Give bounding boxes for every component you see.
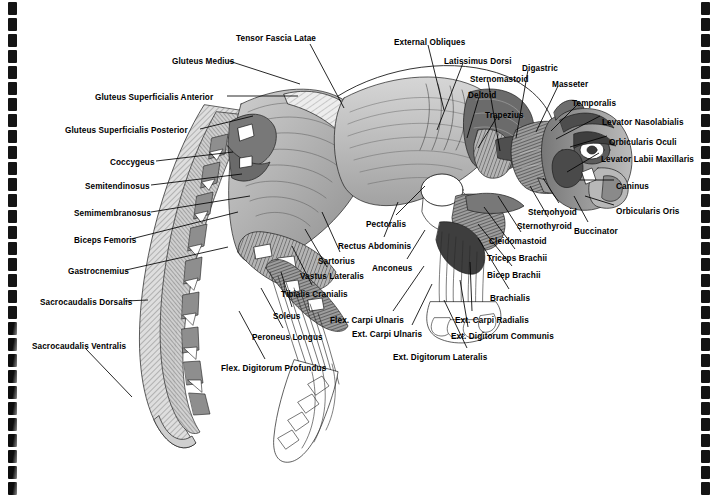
label-coccygeus: Coccygeus xyxy=(110,158,155,167)
label-caninus: Caninus xyxy=(616,182,649,191)
label-levator-labii-maxillaris: Levator Labii Maxillaris xyxy=(601,155,694,164)
label-brachialis: Brachialis xyxy=(490,294,530,303)
label-gluteus-medius: Gluteus Medius xyxy=(172,57,234,66)
binding-hole xyxy=(701,306,710,319)
binding-hole xyxy=(8,2,17,15)
label-ext-carpi-ulnaris: Ext. Carpi Ulnaris xyxy=(352,330,422,339)
label-flex-digitorum-profundus: Flex. Digitorum Profundus xyxy=(221,364,326,373)
label-sacrocaudalis-dorsalis: Sacrocaudalis Dorsalis xyxy=(40,298,132,307)
binding-hole xyxy=(701,482,710,495)
label-rectus-abdominis: Rectus Abdominis xyxy=(338,242,411,251)
label-gluteus-superficialis-anterior: Gluteus Superficialis Anterior xyxy=(95,93,213,102)
label-latissimus-dorsi: Latissimus Dorsi xyxy=(444,57,512,66)
label-buccinator: Buccinator xyxy=(574,227,618,236)
binding-hole xyxy=(701,2,710,15)
label-ext-digitorum-lateralis: Ext. Digitorum Lateralis xyxy=(393,353,487,362)
binding-hole xyxy=(8,370,17,383)
binding-hole xyxy=(701,402,710,415)
binding-hole xyxy=(701,386,710,399)
label-vastus-lateralis: Vastus Lateralis xyxy=(300,272,364,281)
scanned-page: Tensor Fascia LataeGluteus MediusGluteus… xyxy=(0,0,719,496)
label-levator-nasolabialis: Levator Nasolabialis xyxy=(602,118,684,127)
label-biceps-femoris: Biceps Femoris xyxy=(74,236,136,245)
binding-hole xyxy=(8,306,17,319)
label-sternohyoid: Sternohyoid xyxy=(528,208,577,217)
label-masseter: Masseter xyxy=(552,80,588,89)
label-gluteus-superficialis-posterior: Gluteus Superficialis Posterior xyxy=(65,126,188,135)
binding-hole xyxy=(701,50,710,63)
binding-hole xyxy=(701,370,710,383)
binding-hole xyxy=(8,354,17,367)
binding-hole xyxy=(701,274,710,287)
binding-hole xyxy=(701,226,710,239)
label-sternothyroid: Sternothyroid xyxy=(517,222,572,231)
binding-hole xyxy=(701,66,710,79)
binding-hole xyxy=(8,162,17,175)
binding-hole xyxy=(701,210,710,223)
binding-hole xyxy=(701,450,710,463)
binding-hole xyxy=(8,466,17,479)
binding-hole xyxy=(701,354,710,367)
spiral-binding-right xyxy=(693,0,719,496)
binding-hole xyxy=(8,50,17,63)
binding-hole xyxy=(701,114,710,127)
spiral-binding-left xyxy=(0,0,26,496)
binding-hole xyxy=(8,322,17,335)
label-sternomastoid: Sternomastoid xyxy=(470,75,529,84)
label-sartorius: Sartorius xyxy=(318,257,355,266)
binding-hole xyxy=(8,130,17,143)
binding-hole xyxy=(701,162,710,175)
label-soleus: Soleus xyxy=(273,312,300,321)
label-bicep-brachii: Bicep Brachii xyxy=(487,271,541,280)
binding-hole xyxy=(8,66,17,79)
label-ext-carpi-radialis: Ext. Carpi Radialis xyxy=(455,316,529,325)
binding-hole xyxy=(8,434,17,447)
label-peroneus-longus: Peroneus Longus xyxy=(252,333,323,342)
label-anconeus: Anconeus xyxy=(372,264,412,273)
label-gastrocnemius: Gastrocnemius xyxy=(68,267,129,276)
binding-hole xyxy=(8,226,17,239)
binding-hole xyxy=(8,450,17,463)
binding-hole xyxy=(701,338,710,351)
binding-hole xyxy=(701,178,710,191)
binding-hole xyxy=(8,34,17,47)
binding-hole xyxy=(8,338,17,351)
binding-hole xyxy=(8,274,17,287)
binding-hole xyxy=(701,98,710,111)
binding-hole xyxy=(8,82,17,95)
label-tibialis-cranialis: Tibialis Cranialis xyxy=(281,290,348,299)
binding-hole xyxy=(701,242,710,255)
label-triceps-brachii: Triceps Brachii xyxy=(487,254,547,263)
label-sacrocaudalis-ventralis: Sacrocaudalis Ventralis xyxy=(32,342,126,351)
label-flex-carpi-ulnaris: Flex. Carpi Ulnaris xyxy=(330,316,404,325)
binding-hole xyxy=(8,178,17,191)
binding-hole xyxy=(8,402,17,415)
label-trapezius: Trapezius xyxy=(485,111,524,120)
label-semitendinosus: Semitendinosus xyxy=(85,182,150,191)
binding-hole xyxy=(701,258,710,271)
binding-hole xyxy=(701,18,710,31)
binding-hole xyxy=(8,114,17,127)
binding-hole xyxy=(701,322,710,335)
binding-hole xyxy=(8,418,17,431)
binding-hole xyxy=(8,194,17,207)
label-cleidomastoid: Cleidomastoid xyxy=(489,237,547,246)
label-semimembranosus: Semimembranosus xyxy=(74,209,151,218)
label-orbicularis-oris: Orbicularis Oris xyxy=(616,207,680,216)
binding-hole xyxy=(8,210,17,223)
label-pectoralis: Pectoralis xyxy=(366,220,406,229)
label-ext-digitorum-communis: Ext. Digitorum Communis xyxy=(451,332,554,341)
binding-hole xyxy=(701,130,710,143)
label-temporalis: Temporalis xyxy=(572,99,616,108)
binding-hole xyxy=(701,194,710,207)
binding-hole xyxy=(701,146,710,159)
binding-hole xyxy=(701,418,710,431)
binding-hole xyxy=(701,82,710,95)
binding-hole xyxy=(8,242,17,255)
binding-hole xyxy=(701,290,710,303)
binding-hole xyxy=(701,434,710,447)
label-deltoid: Deltoid xyxy=(468,91,496,100)
label-orbicularis-oculi: Orbicularis Oculi xyxy=(609,138,677,147)
label-digastric: Digastric xyxy=(522,64,558,73)
binding-hole xyxy=(8,482,17,495)
